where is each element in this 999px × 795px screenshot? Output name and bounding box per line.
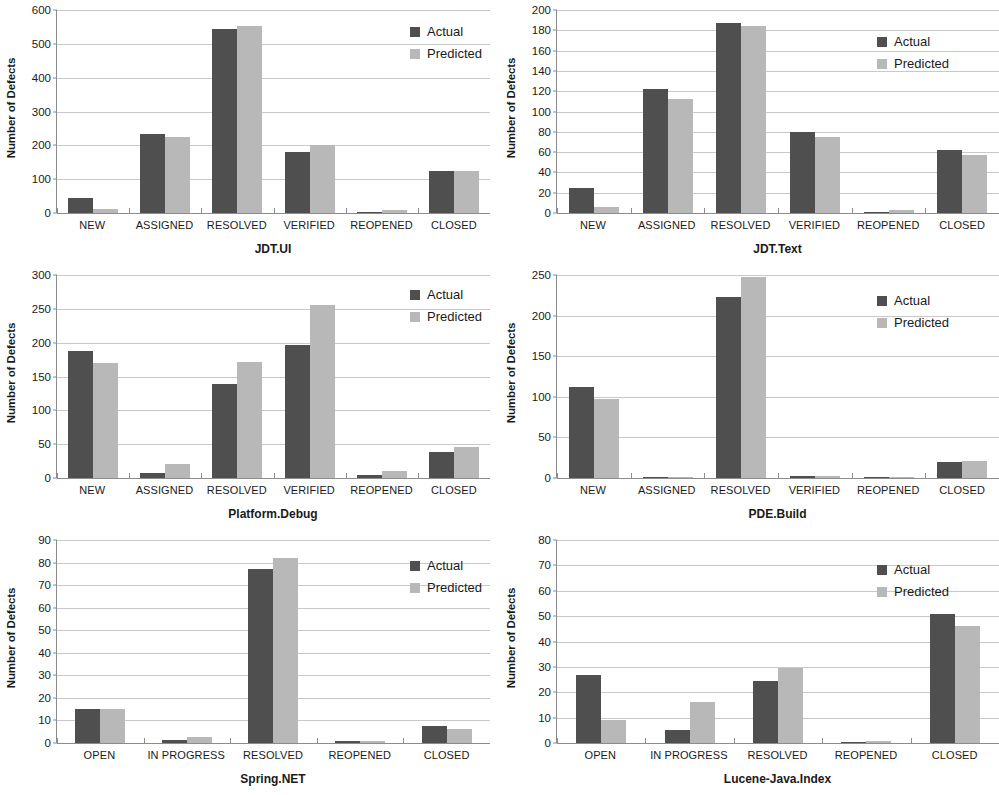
legend-label: Predicted <box>894 584 949 599</box>
bar-actual <box>212 29 237 213</box>
x-tick-mark <box>129 473 130 478</box>
bar-predicted <box>962 461 987 478</box>
bar-predicted <box>601 720 626 743</box>
bar-predicted <box>690 702 715 743</box>
bar-chart-lucene-java-index: Number of Defects01020304050607080OPENIN… <box>500 530 999 795</box>
y-tick-label: 100 <box>32 173 51 185</box>
x-tick-label: REOPENED <box>851 484 925 500</box>
bar-predicted <box>360 741 385 743</box>
legend-swatch-actual-icon <box>877 296 887 306</box>
legend-label: Predicted <box>894 315 949 330</box>
bar-predicted <box>187 737 212 743</box>
bar-chart-jdt-text: Number of Defects02040608010012014016018… <box>500 0 999 265</box>
bar-group <box>129 275 201 478</box>
bar-actual <box>357 212 382 213</box>
bar-actual <box>285 152 310 213</box>
bar-actual <box>716 297 741 478</box>
x-tick-mark <box>631 473 632 478</box>
legend-label: Predicted <box>894 56 949 71</box>
y-tick-label: 70 <box>538 559 551 571</box>
bar-predicted <box>668 477 693 478</box>
legend-label: Actual <box>427 287 463 302</box>
bar-group <box>704 10 778 213</box>
bar-group <box>645 540 733 743</box>
bar-actual <box>864 477 889 478</box>
bar-predicted <box>237 362 262 478</box>
x-tick-label: RESOLVED <box>201 484 273 500</box>
legend-swatch-actual-icon <box>877 565 887 575</box>
x-axis-title: JDT.UI <box>56 242 490 256</box>
x-tick-label: CLOSED <box>910 749 999 765</box>
bar-predicted <box>165 464 190 478</box>
y-tick-label: 0 <box>45 472 51 484</box>
x-tick-label: RESOLVED <box>704 484 778 500</box>
y-tick-label: 500 <box>32 38 51 50</box>
bar-actual <box>248 569 273 743</box>
y-tick-label: 200 <box>532 4 551 16</box>
y-tick-label: 160 <box>532 45 551 57</box>
y-tick-label: 10 <box>538 712 551 724</box>
bar-group <box>557 10 631 213</box>
y-tick-label: 50 <box>538 610 551 622</box>
x-tick-label: VERIFIED <box>777 484 851 500</box>
bar-group <box>778 10 852 213</box>
y-tick-label: 140 <box>532 65 551 77</box>
x-tick-mark <box>317 738 318 743</box>
legend-item: Predicted <box>877 315 949 330</box>
x-tick-label: CLOSED <box>925 484 999 500</box>
legend-item: Actual <box>877 562 949 577</box>
x-tick-mark <box>778 473 779 478</box>
legend-label: Actual <box>894 34 930 49</box>
bar-actual <box>937 150 962 213</box>
legend: ActualPredicted <box>410 558 482 595</box>
y-axis-title-text: Number of Defects <box>5 57 17 158</box>
y-axis-title: Number of Defects <box>502 0 520 215</box>
x-tick-mark <box>822 738 823 743</box>
x-tick-mark <box>274 473 275 478</box>
x-tick-label: RESOLVED <box>230 749 317 765</box>
legend-swatch-actual-icon <box>410 27 420 37</box>
bar-group <box>317 540 404 743</box>
x-tick-mark <box>274 208 275 213</box>
x-tick-mark <box>418 208 419 213</box>
bar-predicted <box>594 207 619 213</box>
bar-group <box>557 540 645 743</box>
legend-item: Predicted <box>410 46 482 61</box>
bar-predicted <box>447 729 472 743</box>
y-tick-label: 0 <box>545 737 551 749</box>
bar-actual <box>162 740 187 743</box>
bar-predicted <box>778 668 803 743</box>
y-tick-label: 10 <box>38 714 51 726</box>
legend-swatch-predicted-icon <box>877 59 887 69</box>
gridline <box>557 478 999 479</box>
bar-predicted <box>594 399 619 478</box>
y-axis-title: Number of Defects <box>2 530 20 745</box>
x-tick-mark <box>778 208 779 213</box>
y-axis-title-text: Number of Defects <box>5 587 17 688</box>
bar-predicted <box>237 26 262 213</box>
x-tick-mark <box>557 208 558 213</box>
x-tick-label: CLOSED <box>418 219 490 235</box>
bar-predicted <box>955 626 980 743</box>
x-tick-mark <box>403 738 404 743</box>
x-tick-mark <box>201 208 202 213</box>
bar-group <box>129 10 201 213</box>
bar-predicted <box>310 305 335 478</box>
y-tick-label: 0 <box>545 472 551 484</box>
y-axis-title-text: Number of Defects <box>5 322 17 423</box>
x-tick-label: REOPENED <box>316 749 403 765</box>
bar-group <box>631 10 705 213</box>
gridline <box>57 743 490 744</box>
x-tick-label: OPEN <box>56 749 143 765</box>
bar-chart-platform-debug: Number of Defects050100150200250300NEWAS… <box>0 265 500 530</box>
bar-actual <box>422 726 447 743</box>
bar-chart-pde-build: Number of Defects050100150200250NEWASSIG… <box>500 265 999 530</box>
bar-group <box>230 540 317 743</box>
x-tick-mark <box>704 473 705 478</box>
bar-predicted <box>93 209 118 213</box>
bar-group <box>57 540 144 743</box>
x-tick-mark <box>557 473 558 478</box>
x-tick-label: ASSIGNED <box>630 219 704 235</box>
bar-group <box>201 10 273 213</box>
x-tick-mark <box>57 473 58 478</box>
